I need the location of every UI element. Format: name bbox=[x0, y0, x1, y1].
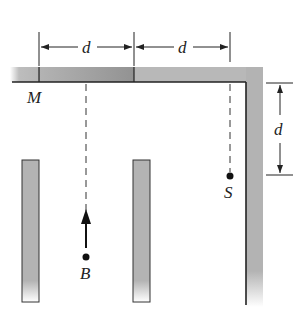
right-wall bbox=[246, 67, 263, 307]
top-wall bbox=[10, 67, 263, 82]
physics-diagram: d d d S B M bbox=[0, 0, 307, 318]
point-b-label: B bbox=[80, 264, 91, 283]
point-b-dot bbox=[83, 254, 90, 261]
top-dimension-lines bbox=[39, 32, 230, 66]
point-m-label: M bbox=[26, 88, 42, 107]
middle-pillar bbox=[133, 160, 150, 302]
dim-label-left: d bbox=[82, 38, 91, 57]
mirror-segment bbox=[39, 67, 134, 82]
point-s-label: S bbox=[224, 183, 233, 202]
up-arrow-icon bbox=[81, 209, 91, 248]
left-pillar bbox=[22, 160, 39, 302]
dim-label-vertical: d bbox=[274, 120, 283, 139]
dim-label-right: d bbox=[178, 38, 187, 57]
point-s-dot bbox=[227, 173, 234, 180]
